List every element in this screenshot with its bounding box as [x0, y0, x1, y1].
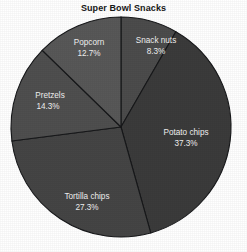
pie-slice-label-pretzels: Pretzels: [35, 91, 65, 100]
pie-slice-percent-popcorn: 12.7%: [77, 49, 100, 58]
pie-slice-group: [11, 17, 231, 237]
pie-slice-percent-potato-chips: 37.3%: [174, 139, 197, 148]
pie-slice-percent-snack-nuts: 8.3%: [147, 47, 166, 56]
pie-slice-label-popcorn: Popcorn: [74, 38, 105, 47]
pie-chart-screenshot: Super Bowl Snacks Snack nuts8.3%Potato c…: [0, 0, 247, 252]
pie-slice-label-potato-chips: Potato chips: [163, 128, 208, 137]
pie-chart-svg: Snack nuts8.3%Potato chips37.3%Tortilla …: [0, 0, 247, 252]
pie-slice-percent-pretzels: 14.3%: [36, 102, 59, 111]
pie-slice-label-tortilla-chips: Tortilla chips: [64, 192, 109, 201]
pie-slice-percent-tortilla-chips: 27.3%: [75, 203, 98, 212]
pie-slice-label-snack-nuts: Snack nuts: [136, 36, 177, 45]
pie-chart-area: Snack nuts8.3%Potato chips37.3%Tortilla …: [0, 0, 247, 252]
